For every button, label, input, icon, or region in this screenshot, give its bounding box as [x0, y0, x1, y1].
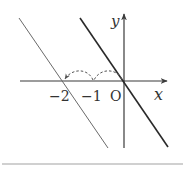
coordinate-diagram: y x O −2 −1	[0, 0, 183, 171]
origin-label: O	[110, 88, 121, 104]
translated-line	[19, 18, 108, 148]
tick-label-minus2: −2	[49, 88, 70, 104]
dashed-arc-minus1-to-minus2	[65, 71, 93, 80]
x-axis-label: x	[154, 85, 163, 104]
y-axis-label: y	[110, 12, 120, 30]
tick-label-minus1: −1	[81, 88, 102, 104]
